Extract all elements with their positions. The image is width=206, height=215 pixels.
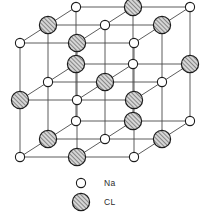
sodium-ion — [185, 116, 194, 125]
legend-marker-na — [76, 178, 85, 187]
sodium-ion — [100, 134, 109, 143]
legend: NaCL — [72, 178, 115, 211]
chloride-ion — [68, 148, 85, 165]
sodium-ion — [71, 2, 80, 11]
chloride-ion — [68, 34, 85, 51]
atom-markers — [11, 0, 198, 166]
chloride-ion — [124, 112, 141, 129]
sodium-ion — [129, 152, 138, 161]
nacl-lattice-figure: NaCL — [0, 0, 206, 215]
sodium-ion — [100, 20, 109, 29]
sodium-ion — [15, 152, 24, 161]
chloride-ion — [96, 73, 113, 90]
chloride-ion — [11, 91, 28, 108]
legend-marker-cl — [72, 193, 89, 210]
chloride-ion — [39, 16, 56, 33]
sodium-ion — [15, 38, 24, 47]
chloride-ion — [67, 55, 84, 72]
chloride-ion — [153, 130, 170, 147]
sodium-ion — [128, 59, 137, 68]
chloride-ion — [124, 0, 141, 16]
chloride-ion — [153, 16, 170, 33]
sodium-ion — [71, 116, 80, 125]
legend-label-na: Na — [104, 178, 115, 188]
sodium-ion — [72, 95, 81, 104]
lattice-diagram: NaCL — [0, 0, 206, 215]
sodium-ion — [43, 77, 52, 86]
sodium-ion — [157, 77, 166, 86]
chloride-ion — [39, 130, 56, 147]
legend-label-cl: CL — [104, 197, 115, 207]
chloride-ion — [181, 55, 198, 72]
chloride-ion — [125, 91, 142, 108]
sodium-ion — [185, 2, 194, 11]
sodium-ion — [129, 38, 138, 47]
